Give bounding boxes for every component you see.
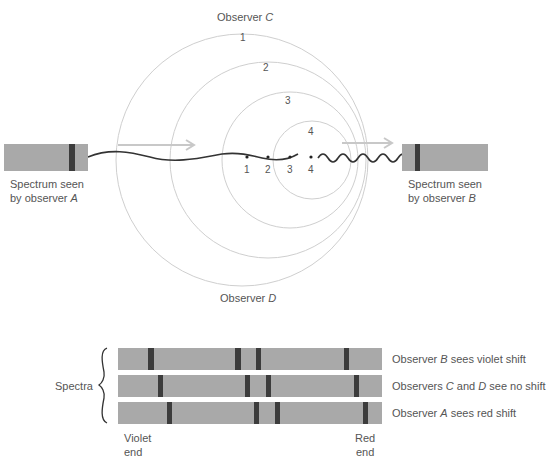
spectral-line — [158, 375, 163, 397]
spectral-line — [235, 348, 241, 370]
red-end-label: Red end — [355, 431, 375, 459]
source-position-3 — [288, 155, 291, 158]
spectrum-b-bar — [402, 144, 488, 171]
spectrum-row-b — [118, 348, 382, 370]
spectral-line — [254, 402, 259, 424]
spectrum-a-line — [69, 144, 75, 171]
wavefront-label-3: 3 — [285, 95, 291, 106]
wavefront-label-2: 2 — [263, 62, 269, 73]
wavefront-circle-3 — [222, 92, 358, 228]
wavefront-label-1: 1 — [240, 32, 246, 43]
spectrum-row-a — [118, 402, 382, 424]
wavefront-label-4: 4 — [308, 126, 314, 137]
spectral-line — [266, 375, 271, 397]
source-label-3: 3 — [287, 164, 293, 175]
spectra-brace — [99, 348, 107, 423]
spectral-line — [256, 348, 261, 370]
spectral-line — [167, 402, 172, 424]
spectral-line — [245, 375, 250, 397]
observer-c-label: Observer C — [217, 10, 273, 24]
spectral-line — [148, 348, 154, 370]
source-label-2: 2 — [265, 164, 271, 175]
spectrum-a-bar — [4, 144, 88, 171]
source-label-4: 4 — [308, 164, 314, 175]
spectral-line — [275, 402, 280, 424]
source-position-2 — [266, 155, 269, 158]
doppler-diagram — [0, 0, 548, 468]
violet-end-label: Violet end — [124, 431, 151, 459]
source-position-1 — [245, 155, 248, 158]
observer-d-label: Observer D — [220, 291, 276, 305]
row-label-no-shift: Observers C and D see no shift — [392, 379, 546, 393]
source-position-4 — [309, 155, 312, 158]
spectral-line — [354, 375, 359, 397]
spectrum-b-line — [415, 144, 420, 171]
spectrum-a-caption: Spectrum seen by observer A — [10, 177, 84, 205]
row-label-violet-shift: Observer B sees violet shift — [392, 352, 526, 366]
row-label-red-shift: Observer A sees red shift — [392, 406, 516, 420]
spectral-line — [363, 402, 368, 424]
spectrum-b-caption: Spectrum seen by observer B — [408, 177, 482, 205]
spectra-brace-label: Spectra — [55, 379, 93, 393]
compressed-wave — [318, 154, 408, 162]
source-label-1: 1 — [244, 164, 250, 175]
arrow-left — [118, 140, 194, 150]
stretched-wave — [88, 152, 298, 161]
spectral-line — [344, 348, 349, 370]
